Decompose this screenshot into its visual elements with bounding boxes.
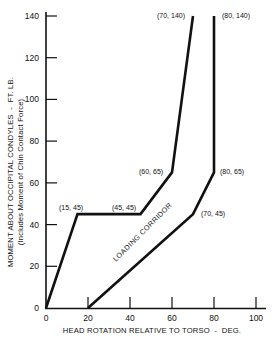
x-axis-title: HEAD ROTATION RELATIVE TO TORSO - DEG. [63,326,241,335]
y-tick-60: 60 [30,178,40,188]
label-70-140: (70, 140) [157,12,185,20]
y-tick-100: 100 [25,94,39,104]
label-45-45: (45, 45) [112,204,136,212]
label-60-65: (60, 65) [139,168,163,176]
chart-canvas: 0 20 40 60 80 100 120 140 0 20 40 60 80 … [0,0,276,341]
y-tick-0: 0 [34,303,39,313]
y-ticks [46,16,57,266]
x-tick-0: 0 [44,313,49,323]
y-tick-120: 120 [25,53,39,63]
y-tick-80: 80 [30,136,40,146]
x-tick-80: 80 [209,313,219,323]
label-80-140: (80, 140) [222,12,250,20]
x-tick-20: 20 [83,313,93,323]
x-tick-100: 100 [249,313,263,323]
label-70-45: (70, 45) [201,210,225,218]
y-axis-title: MOMENT ABOUT OCCIPITAL CONDYLES - FT. LB… [6,77,15,267]
y-tick-140: 140 [25,11,39,21]
x-tick-60: 60 [167,313,177,323]
y-tick-20: 20 [30,261,40,271]
lower-boundary-line [88,16,214,308]
y-tick-40: 40 [30,220,40,230]
upper-boundary-line [46,16,193,308]
label-80-65: (80, 65) [220,168,244,176]
y-axis-subtitle: (Includes Moment of Chin Contact Force) [16,98,25,245]
x-tick-labels: 0 20 40 60 80 100 [44,313,264,323]
x-ticks [88,297,256,308]
x-tick-40: 40 [125,313,135,323]
label-15-45: (15, 45) [59,204,83,212]
y-tick-labels: 0 20 40 60 80 100 120 140 [25,11,39,313]
